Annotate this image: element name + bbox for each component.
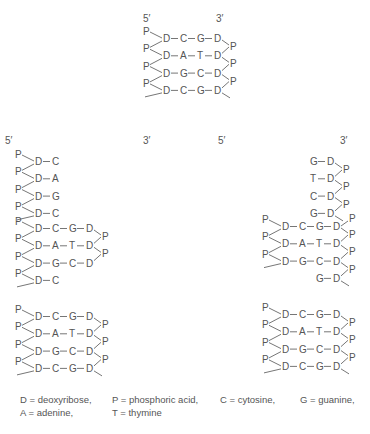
base-A: A: [299, 238, 306, 249]
phosphate: P: [230, 76, 237, 87]
backbone-bond: [222, 40, 229, 45]
backbone-bond: [22, 274, 34, 280]
base-A: A: [180, 50, 187, 61]
phosphate: P: [143, 61, 150, 72]
deoxyribose: D: [282, 256, 289, 267]
phosphate: P: [102, 248, 109, 259]
right-replicating-duplex: DCGDDATDDGCDGDPPPPPPP: [262, 213, 356, 286]
phosphate: P: [102, 319, 109, 330]
base-T: T: [316, 238, 322, 249]
phosphate: P: [15, 304, 22, 315]
phosphate: P: [15, 184, 22, 195]
backbone-bond: [341, 235, 348, 241]
deoxyribose: D: [214, 68, 221, 79]
base-C: C: [180, 85, 187, 96]
base-C: C: [52, 223, 59, 234]
backbone-bond: [22, 257, 34, 263]
deoxyribose: D: [333, 238, 340, 249]
deoxyribose: D: [163, 50, 170, 61]
phosphate: P: [102, 231, 109, 242]
backbone-bond: [22, 207, 34, 213]
deoxyribose: D: [327, 208, 334, 219]
backbone-bond: [150, 76, 162, 82]
legend-cytosine: C = cytosine,: [220, 394, 275, 405]
phosphate: P: [15, 149, 22, 160]
deoxyribose: D: [333, 361, 340, 372]
deoxyribose: D: [282, 344, 289, 355]
phosphate: P: [15, 339, 22, 350]
phosphate: P: [143, 43, 150, 54]
base-C: C: [52, 275, 59, 286]
backbone-bond: [22, 327, 34, 333]
base-G: G: [316, 221, 324, 232]
phosphate: P: [349, 213, 356, 224]
base-A: A: [52, 240, 59, 251]
legend-guanine: G = guanine,: [300, 394, 355, 405]
backbone-bond: [22, 336, 34, 342]
backbone-bond: [335, 163, 342, 168]
base-G: G: [69, 363, 77, 374]
deoxyribose: D: [163, 85, 170, 96]
base-G: G: [316, 309, 324, 320]
top-duplex: DCGDDATDDGCDDCGDPPPPPPP: [143, 26, 237, 98]
base-C: C: [52, 311, 59, 322]
backbone-bond: [222, 75, 229, 80]
phosphate: P: [262, 337, 269, 348]
phosphate: P: [230, 58, 237, 69]
backbone-bond: [222, 57, 229, 62]
base-G: G: [316, 273, 324, 284]
backbone-bond: [94, 371, 102, 376]
deoxyribose: D: [35, 363, 42, 374]
base-G: G: [299, 256, 307, 267]
backbone-bond: [22, 231, 34, 237]
backbone-bond: [341, 270, 348, 276]
base-T: T: [316, 326, 322, 337]
phosphate: P: [15, 356, 22, 367]
deoxyribose: D: [327, 173, 334, 184]
phosphate: P: [343, 164, 350, 175]
backbone-bond: [94, 360, 101, 366]
backbone-bond: [150, 67, 162, 73]
base-C: C: [69, 346, 76, 357]
base-C: C: [316, 256, 323, 267]
base-T: T: [69, 240, 75, 251]
deoxyribose: D: [282, 361, 289, 372]
phosphate: P: [343, 199, 350, 210]
backbone-bond: [22, 199, 34, 205]
phosphate: P: [349, 246, 356, 257]
deoxyribose: D: [163, 68, 170, 79]
left-5prime-label: 5′: [5, 135, 13, 146]
left-replicating-duplex: DCGDDATDDGCDDCPPPPPP: [15, 216, 109, 287]
base-C: C: [299, 361, 306, 372]
base-G: G: [310, 156, 318, 167]
base-G: G: [52, 346, 60, 357]
base-G: G: [69, 223, 77, 234]
phosphate: P: [262, 214, 269, 225]
base-G: G: [197, 33, 205, 44]
base-C: C: [52, 156, 59, 167]
backbone-bond: [22, 319, 34, 325]
legend-thymine: T = thymine: [112, 407, 162, 418]
deoxyribose: D: [86, 223, 93, 234]
phosphate: P: [15, 321, 22, 332]
phosphate: P: [262, 319, 269, 330]
backbone-bond: [94, 230, 101, 235]
backbone-bond: [341, 358, 348, 364]
backbone-bond: [222, 47, 229, 53]
base-G: G: [69, 311, 77, 322]
backbone-bond: [222, 64, 229, 70]
deoxyribose: D: [282, 238, 289, 249]
right-5prime-label: 5′: [218, 135, 226, 146]
backbone-bond: [94, 237, 101, 243]
phosphate: P: [15, 166, 22, 177]
deoxyribose: D: [214, 85, 221, 96]
phosphate: P: [349, 229, 356, 240]
backbone-bond: [94, 254, 101, 260]
backbone-bond: [94, 318, 101, 323]
backbone-bond: [269, 317, 281, 323]
base-C: C: [310, 191, 317, 202]
backbone-bond: [94, 325, 101, 331]
backbone-bond: [22, 354, 34, 360]
base-C: C: [69, 258, 76, 269]
backbone-bond: [94, 247, 101, 252]
